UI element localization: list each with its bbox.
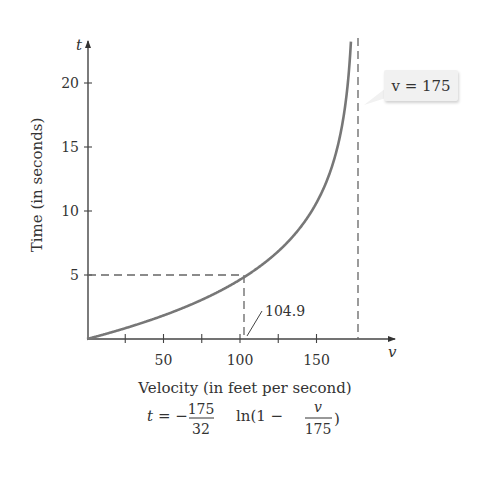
- x-axis-symbol: v: [388, 343, 397, 361]
- svg-text:5: 5: [70, 267, 79, 283]
- x-tick-labels: 50100150: [155, 352, 330, 368]
- y-axis-symbol: t: [76, 36, 83, 54]
- y-axis-label: Time (in seconds): [28, 118, 46, 253]
- svg-text:= −: = −: [158, 407, 188, 425]
- point-label: 104.9: [265, 303, 305, 319]
- svg-text:175: 175: [305, 421, 332, 437]
- y-tick-labels: 5101520: [61, 75, 79, 283]
- x-axis-label: Velocity (in feet per second): [137, 379, 351, 397]
- guide-dashed: [88, 275, 244, 339]
- svg-text:): ): [334, 410, 340, 428]
- curve: [87, 42, 351, 339]
- svg-text:175: 175: [188, 401, 215, 417]
- svg-text:t: t: [147, 407, 154, 425]
- asymptote-callout: v = 175: [384, 70, 458, 101]
- formula: t = − 175 32 ln(1 − v 175 ): [147, 399, 340, 437]
- leader-line: [247, 311, 262, 336]
- svg-text:ln(1 −: ln(1 −: [236, 407, 283, 425]
- svg-text:32: 32: [192, 421, 210, 437]
- svg-text:10: 10: [61, 203, 79, 219]
- svg-text:v: v: [314, 399, 322, 415]
- svg-text:15: 15: [61, 139, 79, 155]
- svg-text:50: 50: [155, 352, 173, 368]
- asymptote-label: v = 175: [391, 77, 450, 95]
- svg-text:150: 150: [303, 352, 330, 368]
- svg-text:100: 100: [227, 352, 254, 368]
- svg-text:20: 20: [61, 75, 79, 91]
